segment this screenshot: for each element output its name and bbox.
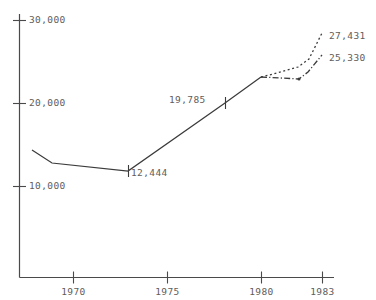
y-tick-label-10000: 10,000	[29, 180, 66, 191]
chart-figure: 30,000 20,000 10,000 1970 1975 1980 1983…	[0, 0, 376, 300]
series-projection-high	[261, 33, 322, 77]
y-tick-label-30000: 30,000	[29, 14, 66, 25]
data-label-25330: 25,330	[329, 52, 366, 63]
line-chart-canvas	[0, 0, 376, 300]
series-projection-low	[261, 55, 322, 79]
data-label-19785: 19,785	[169, 94, 206, 105]
x-tick-label-1975: 1975	[145, 286, 190, 297]
data-label-27431: 27,431	[329, 30, 366, 41]
x-tick-label-1980: 1980	[239, 286, 284, 297]
x-tick-label-1970: 1970	[51, 286, 96, 297]
data-label-12444: 12,444	[131, 167, 168, 178]
x-tick-label-1983: 1983	[300, 286, 345, 297]
branch-node	[298, 78, 301, 81]
series-historical	[32, 77, 261, 171]
y-tick-label-20000: 20,000	[29, 97, 66, 108]
